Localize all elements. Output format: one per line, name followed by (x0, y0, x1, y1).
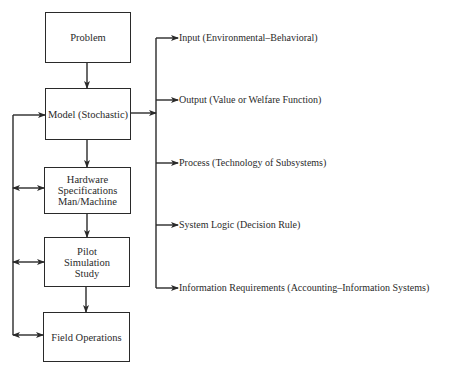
component-process: Process (Technology of Subsystems) (179, 157, 326, 169)
box-field-operations: Field Operations (43, 312, 130, 362)
component-output: Output (Value or Welfare Function) (179, 94, 321, 106)
box-model: Model (Stochastic) (45, 88, 131, 140)
box-label: Problem (70, 32, 106, 43)
box-label: Hardware Specifications Man/Machine (58, 174, 117, 207)
box-pilot: Pilot Simulation Study (44, 237, 130, 287)
component-input: Input (Environmental–Behavioral) (179, 32, 318, 44)
component-system-logic: System Logic (Decision Rule) (179, 219, 300, 231)
box-problem: Problem (45, 12, 131, 63)
component-information-requirements: Information Requirements (Accounting–Inf… (179, 282, 429, 294)
box-label: Field Operations (51, 332, 121, 343)
box-label: Model (Stochastic) (48, 109, 128, 120)
box-label: Pilot Simulation Study (64, 246, 110, 279)
box-hardware: Hardware Specifications Man/Machine (44, 167, 131, 214)
